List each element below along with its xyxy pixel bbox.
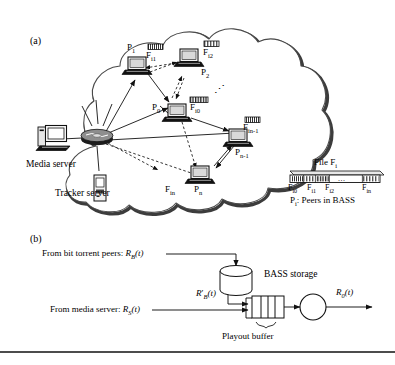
storage-out-arg: (t) (207, 288, 216, 298)
bittorrent-input-label: From bit torrent peers: RB(t) (42, 249, 143, 260)
chunk-label-p0-sub: i0 (195, 107, 200, 114)
file-seg-1-sub: i1 (311, 188, 316, 194)
chunk-bar-p2 (204, 41, 219, 47)
figure-container: (a) P1 Fi1 P2 Fi2 P0 Fi0 Fin-1 Pn-1 Fin … (0, 0, 395, 365)
tracker-server-label: Tracker server (55, 189, 110, 199)
bittorrent-input-arg: (t) (135, 248, 144, 258)
cylinder-database-icon (220, 266, 252, 296)
media-server-input-label: From media server: RS(t) (50, 305, 140, 316)
playout-buffer-shape (252, 296, 284, 328)
peer-label-pn1-sub: n-1 (240, 152, 249, 159)
chunk-label-pn: Fin (165, 185, 175, 196)
chunk-label-p2: Fi2 (203, 48, 213, 59)
peer-label-pn: Pn (194, 185, 202, 196)
peer-label-p2: P2 (201, 68, 209, 79)
bass-storage-label: BASS storage (264, 270, 318, 280)
chunk-label-pn1: Fin-1 (243, 123, 259, 134)
chunk-label-p1: Fi1 (146, 51, 156, 62)
file-seg-0-sub: i0 (292, 188, 297, 194)
file-legend-title: File Fi (314, 158, 337, 169)
chunk-label-p0: Fi0 (190, 103, 200, 114)
file-legend-title-text: File F (314, 157, 335, 167)
bittorrent-input-text: From bit torrent peers: (42, 248, 125, 258)
circle-node-icon (300, 294, 326, 320)
output-arg: (t) (345, 287, 354, 297)
desktop-computer-icon (36, 126, 70, 151)
media-input-text: From media server: (50, 304, 123, 314)
peer-label-p1: P1 (127, 43, 135, 54)
playout-buffer-label: Playout buffer (222, 332, 274, 341)
peer-label-pn-sub: n (199, 189, 202, 196)
file-bar-legend (290, 171, 384, 183)
peer-label-p2-sub: 2 (206, 72, 209, 79)
peers-note-suffix: : Peers in BASS (297, 195, 355, 205)
storage-output-label: R′B(t) (196, 289, 216, 300)
media-server-label: Media server (26, 160, 76, 170)
peer-label-p0-sub: 0 (157, 107, 160, 114)
file-seg-label-n: Fin (362, 184, 371, 194)
panel-b-label: (b) (30, 234, 42, 244)
chunk-label-pn-sub: in (170, 189, 175, 196)
panel-a-label: (a) (30, 36, 41, 46)
file-seg-n-sub: in (366, 188, 371, 194)
file-legend-title-sub: i (335, 162, 337, 169)
peers-in-bass-note: Pi: Peers in BASS (290, 196, 355, 207)
file-seg-label-1: Fi1 (307, 184, 316, 194)
network-hub-icon (81, 129, 113, 145)
output-rate-label: R0(t) (336, 288, 353, 299)
chunk-bar-p1 (148, 44, 163, 50)
peer-label-pn1: Pn-1 (235, 148, 249, 159)
file-seg-label-0: Fi0 (288, 184, 297, 194)
peer-label-p0: P0 (152, 103, 160, 114)
peers-ellipsis: ⋰ (214, 84, 226, 95)
file-seg-ellipsis: ... (338, 175, 346, 183)
chunk-label-p1-sub: i1 (151, 55, 156, 62)
chunk-label-pn1-sub: in-1 (248, 127, 258, 134)
chunk-label-p2-sub: i2 (208, 52, 213, 59)
file-seg-2-sub: i2 (329, 188, 334, 194)
media-input-arg: (t) (131, 304, 140, 314)
file-seg-label-2: Fi2 (325, 184, 334, 194)
peer-label-p1-sub: 1 (132, 47, 135, 54)
